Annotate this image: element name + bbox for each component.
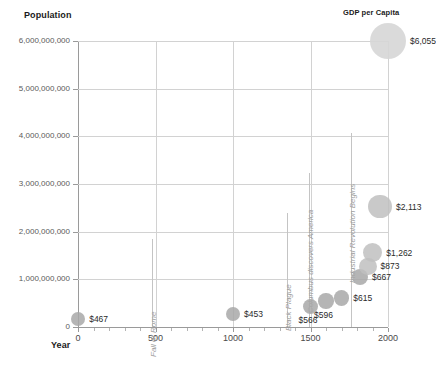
x-tick-mark <box>233 328 234 332</box>
data-point-label: $615 <box>353 293 372 303</box>
x-tick-mark <box>78 328 79 332</box>
event-annotation-label: Industrial Revolution Begins <box>348 184 357 283</box>
y-axis-title: Population <box>24 10 72 20</box>
plot-area: Fall of RomeBlack PlagueColumbus discove… <box>78 41 388 327</box>
data-point-bubble[interactable] <box>363 243 383 263</box>
data-point-label: $667 <box>372 272 391 282</box>
data-point-bubble[interactable] <box>318 293 333 308</box>
x-tick-mark-minor <box>125 328 126 331</box>
x-tick-label: 1000 <box>213 333 253 343</box>
x-tick-mark-minor <box>171 328 172 331</box>
event-annotation-label: Fall of Rome <box>149 312 158 357</box>
data-point-label: $2,113 <box>396 202 421 212</box>
x-tick-mark-minor <box>249 328 250 331</box>
x-tick-mark-minor <box>342 328 343 331</box>
gridline-vertical <box>156 41 157 327</box>
gridline-vertical <box>233 41 234 327</box>
x-tick-mark-minor <box>326 328 327 331</box>
event-annotation-label: Columbus discovers America <box>306 210 315 313</box>
x-tick-mark-minor <box>280 328 281 331</box>
x-tick-mark-minor <box>373 328 374 331</box>
data-point-bubble[interactable] <box>226 307 240 321</box>
data-point-label: $453 <box>244 309 263 319</box>
x-tick-mark-minor <box>264 328 265 331</box>
x-tick-mark <box>311 328 312 332</box>
x-tick-mark-minor <box>140 328 141 331</box>
data-point-label: $467 <box>89 314 108 324</box>
x-tick-mark-minor <box>218 328 219 331</box>
x-tick-label: 1500 <box>291 333 331 343</box>
data-point-label: $596 <box>314 310 333 320</box>
gridline-vertical <box>388 41 389 327</box>
x-tick-label: 0 <box>58 333 98 343</box>
x-tick-mark-minor <box>187 328 188 331</box>
event-annotation-label: Black Plague <box>284 284 293 331</box>
x-tick-mark-minor <box>295 328 296 331</box>
y-tick-label: 6,000,000,000 <box>0 36 70 45</box>
y-tick-label: 5,000,000,000 <box>0 84 70 93</box>
data-point-bubble[interactable] <box>71 312 85 326</box>
data-point-label: $873 <box>381 261 400 271</box>
y-tick-label: 2,000,000,000 <box>0 227 70 236</box>
x-tick-mark <box>388 328 389 332</box>
y-tick-label: 0 <box>0 322 70 331</box>
data-point-label: $1,262 <box>386 248 412 258</box>
y-tick-label: 1,000,000,000 <box>0 274 70 283</box>
x-tick-mark-minor <box>202 328 203 331</box>
x-tick-mark-minor <box>109 328 110 331</box>
data-point-bubble[interactable] <box>370 23 406 59</box>
x-tick-label: 2000 <box>368 333 408 343</box>
y-tick-label: 4,000,000,000 <box>0 131 70 140</box>
data-point-label: $6,055 <box>410 36 436 46</box>
bubble-size-legend-label: GDP per Capita <box>343 8 399 17</box>
y-tick-label: 3,000,000,000 <box>0 179 70 188</box>
data-point-bubble[interactable] <box>334 290 350 306</box>
x-tick-mark-minor <box>357 328 358 331</box>
x-tick-mark-minor <box>94 328 95 331</box>
